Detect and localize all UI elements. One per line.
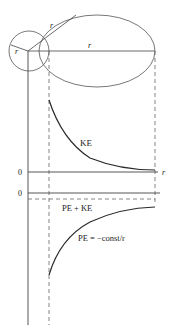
small-radius-line bbox=[11, 45, 28, 51]
small-radius-label: r bbox=[15, 47, 19, 56]
pe-label: PE = −const/r bbox=[78, 233, 125, 243]
orbit-energy-diagram: r r r 0 r KE 0 PE + KE PE = −const/r bbox=[0, 0, 177, 332]
lower-zero-label: 0 bbox=[18, 189, 22, 198]
ke-label: KE bbox=[80, 138, 92, 148]
ke-curve bbox=[49, 100, 155, 170]
diagonal-radius-label: r bbox=[50, 21, 54, 30]
horizontal-radius-label: r bbox=[88, 41, 92, 50]
total-energy-label: PE + KE bbox=[62, 203, 92, 213]
upper-x-axis-label: r bbox=[162, 168, 166, 177]
upper-zero-label: 0 bbox=[18, 168, 22, 177]
